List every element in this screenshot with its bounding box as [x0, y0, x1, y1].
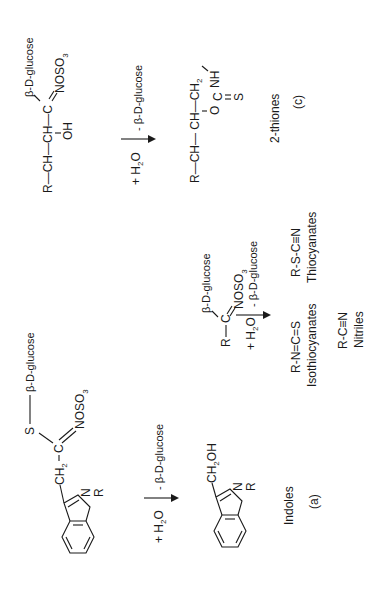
panel-c-substrate-chain: R—CH—CH—C: [41, 105, 55, 193]
product-n: N: [231, 482, 245, 491]
panel-a-c: C: [52, 444, 66, 453]
pyrrole-double: [220, 494, 231, 501]
panel-c-oh: OH: [61, 122, 75, 140]
reaction-scheme: R—CH—CH—C OH β-D-glucose NOSO3 + H2O - β…: [0, 0, 379, 595]
ch2oh-bond: [212, 483, 216, 497]
panel-b-reagent: + H2O: [244, 317, 260, 350]
pyrrole-double: [68, 500, 79, 507]
panel-b: R C β-D-glucose NOSO3 + H2O - β-D-glucos…: [200, 212, 366, 387]
panel-c-product: R—CH— CH—CH2 O C NH S: [188, 66, 246, 183]
panel-a-arrow: + H2O - β-D-glucose: [144, 424, 179, 543]
arrow-head: [263, 311, 271, 319]
panel-c-s: S: [232, 93, 246, 101]
panel-c-product-chain: R—CH— CH—CH2: [188, 78, 204, 183]
panel-a-reagent: + H2O: [152, 510, 168, 543]
c-s-bond: [39, 433, 53, 443]
panel-b-r: R: [219, 338, 233, 347]
panel-c-class: 2-thiones: [268, 94, 282, 143]
panel-a-substrate: N R CH2 C S β-D-glucose NOSO3: [23, 332, 106, 553]
panel-a-class: Indoles: [282, 486, 296, 525]
panel-a-product: N R CH2OH: [205, 443, 258, 547]
double-bond-b: [59, 428, 73, 440]
panel-a-ch2: CH2: [53, 463, 69, 485]
isothiocyanate-name: Isothiocyanates: [305, 304, 319, 387]
pyrrole-ring: [64, 495, 90, 521]
arrow-head: [171, 494, 179, 502]
panel-c: R—CH—CH—C OH β-D-glucose NOSO3 + H2O - β…: [23, 37, 305, 193]
panel-b-substrate: R C β-D-glucose NOSO3: [200, 253, 249, 347]
panel-c-glucose: β-D-glucose: [23, 37, 35, 97]
panel-c-c: C: [211, 92, 225, 101]
panel-b-loss: - β-D-glucose: [247, 241, 259, 307]
isothiocyanate-formula: R-N=C=S: [289, 321, 303, 373]
benzene-ring: [62, 521, 94, 553]
panel-c-noso3: NOSO3: [53, 53, 70, 93]
nh-bond: [202, 66, 208, 71]
panel-c-arrow: + H2O - β-D-glucose: [121, 65, 156, 185]
panel-a-label: (a): [307, 494, 321, 509]
reaction-scheme-svg: R—CH—CH—C OH β-D-glucose NOSO3 + H2O - β…: [0, 0, 379, 595]
thiocyanate-name: Thiocyanates: [305, 212, 319, 283]
double-bond-a: [62, 431, 76, 443]
indole-r: R: [92, 488, 106, 497]
panel-a-ch2oh: CH2OH: [205, 443, 221, 483]
indole-n: N: [79, 488, 93, 497]
nitrile-name: Nitriles: [352, 311, 366, 348]
panel-c-substrate: R—CH—CH—C OH β-D-glucose NOSO3: [23, 37, 75, 193]
panel-c-o: O: [208, 106, 222, 115]
benzene-ring: [214, 515, 246, 547]
panel-c-reagent: + H2O: [129, 152, 145, 185]
panel-c-loss: - β-D-glucose: [132, 65, 144, 131]
pyrrole-ring: [216, 489, 242, 515]
panel-a-s: S: [23, 427, 37, 435]
arrow-head: [148, 135, 156, 143]
product-r: R: [244, 482, 258, 491]
thiocyanate-formula: R-S-C≡N: [289, 228, 303, 277]
nitrile-formula: R-C≡N: [336, 312, 350, 349]
panel-c-nh: NH: [208, 71, 222, 88]
panel-b-glucose: β-D-glucose: [200, 253, 212, 313]
panel-a-glucose: β-D-glucose: [24, 332, 36, 392]
glucose-bond: [212, 311, 218, 317]
panel-b-products: R-N=C=S Isothiocyanates R-S-C≡N Thiocyan…: [289, 212, 366, 387]
panel-a-noso3: NOSO3: [73, 389, 90, 429]
panel-a: N R CH2 C S β-D-glucose NOSO3 + H2O - β-…: [23, 332, 321, 553]
panel-a-loss: - β-D-glucose: [153, 424, 165, 490]
double-bond-a: [52, 93, 57, 101]
panel-c-label: (c): [291, 95, 305, 109]
ch2-bond: [60, 485, 64, 503]
